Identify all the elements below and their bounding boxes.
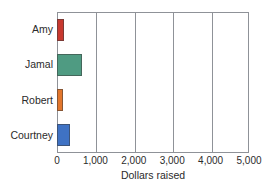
x-tick-label: 4,000 — [198, 155, 223, 166]
x-tick-label: 1,000 — [83, 155, 108, 166]
category-label-courtney: Courtney — [10, 118, 53, 153]
category-label-amy: Amy — [32, 12, 53, 47]
x-tick-label: 0 — [54, 155, 60, 166]
category-label-jamal: Jamal — [25, 47, 53, 82]
x-tick-label: 2,000 — [121, 155, 146, 166]
x-tick-label: 3,000 — [160, 155, 185, 166]
x-tick-label: 5,000 — [236, 155, 261, 166]
category-axis-labels: AmyJamalRobertCourtney — [0, 12, 53, 153]
bar-chart: AmyJamalRobertCourtney 01,0002,0003,0004… — [0, 0, 269, 185]
gridline — [96, 13, 97, 152]
gridline — [212, 13, 213, 152]
category-label-robert: Robert — [21, 83, 53, 118]
gridline — [173, 13, 174, 152]
x-axis-title: Dollars raised — [57, 169, 249, 181]
plot-area — [57, 12, 249, 153]
gridline — [135, 13, 136, 152]
value-axis-tick-labels: 01,0002,0003,0004,0005,000 — [0, 155, 269, 169]
